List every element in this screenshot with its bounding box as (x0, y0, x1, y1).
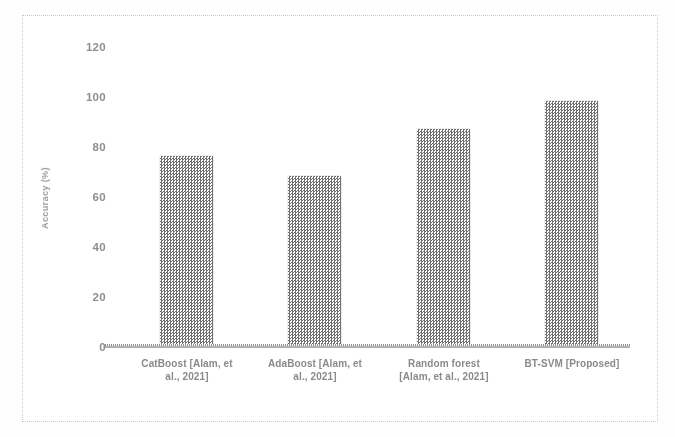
y-tick-label: 80 (60, 141, 106, 153)
x-label-line2: [Alam, et al., 2021] (369, 370, 519, 383)
y-tick-label: 100 (60, 91, 106, 103)
bar-adaboost (288, 176, 341, 346)
bar-chart: Accuracy (%) 0 20 40 60 80 100 120 CatBo… (0, 0, 675, 437)
y-tick-label: 20 (60, 291, 106, 303)
x-axis-line (105, 346, 630, 348)
y-tick-label: 0 (60, 341, 106, 353)
x-label-adaboost: AdaBoost [Alam, et al., 2021] (240, 357, 390, 383)
x-label-bt-svm: BT-SVM [Proposed] (497, 357, 647, 370)
y-axis-title: Accuracy (%) (40, 167, 50, 229)
y-tick-label: 120 (60, 41, 106, 53)
y-tick-label: 60 (60, 191, 106, 203)
bar-catboost (160, 156, 213, 346)
x-label-line2: al., 2021] (240, 370, 390, 383)
bar-bt-svm (545, 101, 598, 346)
x-label-line1: BT-SVM [Proposed] (497, 357, 647, 370)
x-label-line1: AdaBoost [Alam, et (240, 357, 390, 370)
bar-random-forest (417, 129, 470, 347)
y-tick-label: 40 (60, 241, 106, 253)
chart-page: Accuracy (%) 0 20 40 60 80 100 120 CatBo… (0, 0, 675, 437)
